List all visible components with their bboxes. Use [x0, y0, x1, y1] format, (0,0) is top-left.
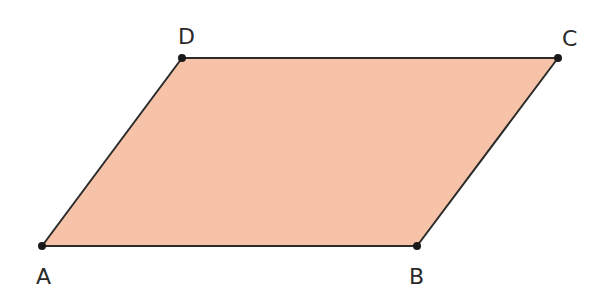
vertex-label-b: B [409, 264, 424, 289]
vertex-label-c: C [562, 26, 577, 51]
vertex-point-b [413, 242, 421, 250]
vertex-label-d: D [178, 24, 195, 49]
parallelogram-shape [42, 58, 558, 246]
vertex-point-a [38, 242, 46, 250]
vertex-label-a: A [36, 264, 51, 289]
vertex-point-d [178, 54, 186, 62]
vertex-point-c [554, 54, 562, 62]
parallelogram-diagram: A B C D [0, 0, 612, 292]
